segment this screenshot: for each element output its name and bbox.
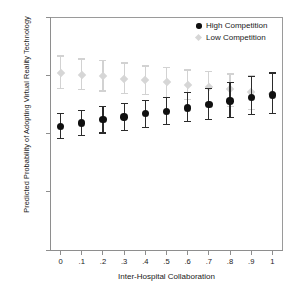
- error-bar-cap: [99, 106, 106, 107]
- error-bar-cap: [184, 121, 191, 122]
- x-tick-label: .6: [177, 257, 199, 266]
- error-bar-cap: [163, 67, 170, 68]
- x-axis-title: Inter-Hospital Collaboration: [50, 272, 283, 281]
- error-bar-cap: [57, 138, 64, 139]
- error-bar-cap: [227, 73, 234, 74]
- error-bar-cap: [205, 119, 212, 120]
- x-tick: [166, 251, 167, 255]
- x-tick: [208, 251, 209, 255]
- error-bar-cap: [227, 117, 234, 118]
- x-tick-label: .4: [134, 257, 156, 266]
- error-bar-cap: [121, 93, 128, 94]
- plot-frame: [50, 17, 283, 250]
- circle-icon: [196, 23, 202, 29]
- error-bar-cap: [57, 113, 64, 114]
- x-tick: [102, 251, 103, 255]
- data-point-high: [226, 97, 233, 104]
- error-bar-cap: [269, 72, 276, 73]
- error-bar-cap: [142, 94, 149, 95]
- data-point-high: [205, 101, 212, 108]
- x-tick: [124, 251, 125, 255]
- error-bar-cap: [78, 135, 85, 136]
- error-bar-cap: [184, 92, 191, 93]
- y-axis-title: Predicted Probability of Adopting Virtua…: [22, 0, 31, 235]
- x-tick-label: .2: [92, 257, 114, 266]
- error-bar-cap: [99, 132, 106, 133]
- error-bar-cap: [121, 62, 128, 63]
- legend-label-low: Low Competition: [206, 32, 266, 44]
- x-tick: [272, 251, 273, 255]
- error-bar-cap: [163, 124, 170, 125]
- x-tick-label: .1: [71, 257, 93, 266]
- error-bar-cap: [99, 60, 106, 61]
- data-point-high: [269, 91, 276, 98]
- error-bar-cap: [142, 65, 149, 66]
- y-tick: [46, 133, 50, 134]
- error-bar-cap: [78, 58, 85, 59]
- y-tick: [46, 75, 50, 76]
- error-bar-cap: [57, 55, 64, 56]
- x-tick-label: .9: [240, 257, 262, 266]
- data-point-high: [99, 116, 106, 123]
- y-axis-line: [50, 17, 51, 250]
- error-bar-cap: [269, 113, 276, 114]
- figure: Predicted Probability of Adopting Virtua…: [0, 0, 294, 306]
- error-bar-cap: [78, 110, 85, 111]
- error-bar-cap: [99, 90, 106, 91]
- y-tick: [46, 17, 50, 18]
- error-bar-cap: [121, 130, 128, 131]
- error-bar-cap: [205, 88, 212, 89]
- error-bar-cap: [142, 127, 149, 128]
- x-tick: [187, 251, 188, 255]
- x-tick: [60, 251, 61, 255]
- data-point-high: [248, 94, 255, 101]
- error-bar-cap: [163, 97, 170, 98]
- error-bar-cap: [57, 88, 64, 89]
- x-tick: [81, 251, 82, 255]
- data-point-high: [184, 104, 191, 111]
- x-tick-label: .3: [113, 257, 135, 266]
- error-bar-cap: [227, 82, 234, 83]
- x-tick: [251, 251, 252, 255]
- error-bar-cap: [248, 114, 255, 115]
- error-bar-cap: [121, 103, 128, 104]
- x-tick-label: .8: [219, 257, 241, 266]
- y-tick: [46, 250, 50, 251]
- legend-label-high: High Competition: [206, 20, 267, 32]
- x-tick-label: .7: [198, 257, 220, 266]
- x-tick: [230, 251, 231, 255]
- figure-caption: [0, 298, 294, 306]
- x-tick-label: 0: [50, 257, 72, 266]
- y-tick: [46, 191, 50, 192]
- error-bar-cap: [184, 69, 191, 70]
- error-bar-cap: [248, 76, 255, 77]
- data-point-high: [120, 113, 127, 120]
- x-tick-label: .5: [156, 257, 178, 266]
- x-tick: [145, 251, 146, 255]
- error-bar-cap: [205, 71, 212, 72]
- error-bar-cap: [78, 89, 85, 90]
- x-tick-label: 1: [261, 257, 283, 266]
- error-bar-cap: [142, 100, 149, 101]
